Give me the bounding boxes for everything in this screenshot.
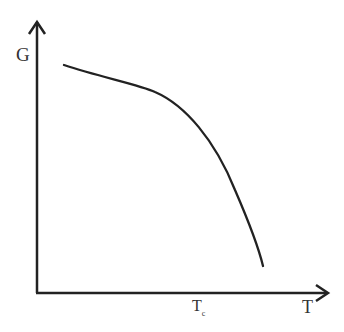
y-axis-label: G: [16, 44, 30, 66]
tc-tick-label: Tc: [192, 297, 205, 315]
tc-main: T: [192, 297, 202, 314]
x-axis: [36, 285, 328, 301]
diagram-canvas: [0, 0, 344, 332]
gibbs-curve: [64, 65, 263, 266]
x-axis-label: T: [302, 297, 313, 318]
tc-subscript: c: [202, 309, 206, 318]
y-axis: [29, 22, 45, 293]
diagram-root: G T Tc: [0, 0, 344, 332]
